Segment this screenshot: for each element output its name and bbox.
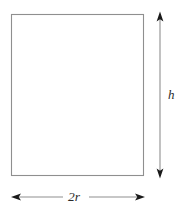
height-dimension-arrow — [157, 12, 164, 179]
geometry-figure: h 2r — [0, 0, 189, 215]
height-label: h — [168, 88, 175, 101]
width-label: 2r — [68, 190, 80, 204]
rectangle-shape — [12, 15, 144, 176]
figure-canvas — [0, 0, 189, 215]
